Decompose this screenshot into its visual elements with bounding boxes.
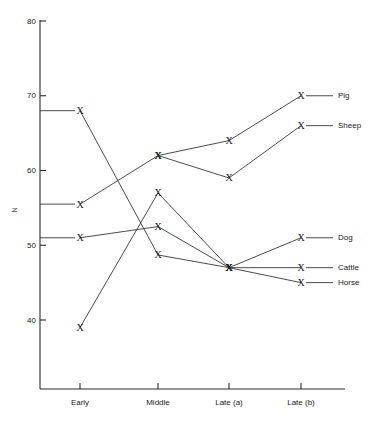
data-point-marker: X — [225, 135, 233, 146]
data-point-marker: X — [76, 322, 84, 333]
axes-layer — [40, 20, 345, 389]
data-point-marker: X — [297, 232, 305, 243]
data-point-marker: X — [297, 277, 305, 288]
x-axis-tick-label: Late (a) — [215, 398, 243, 407]
data-point-marker: X — [76, 232, 84, 243]
y-axis-tick-label: 80 — [27, 17, 36, 26]
series-line-horse — [80, 111, 301, 283]
series-lines-layer — [80, 96, 301, 328]
y-axis-tick-label: 70 — [27, 91, 36, 100]
series-label-horse: Horse — [338, 278, 360, 287]
data-point-marker: X — [76, 199, 84, 210]
y-axis-tick-label: 40 — [27, 316, 36, 325]
data-point-marker: X — [76, 105, 84, 116]
y-axis-tick-label: 50 — [27, 241, 36, 250]
data-point-marker: X — [297, 262, 305, 273]
chart-canvas: XXXXXXXXXXXXXXXXXXX 4050607080EarlyMiddl… — [0, 0, 383, 428]
data-point-marker: X — [297, 120, 305, 131]
line-chart: XXXXXXXXXXXXXXXXXXX 4050607080EarlyMiddl… — [0, 0, 383, 428]
data-point-marker: X — [225, 262, 233, 273]
data-point-marker: X — [297, 90, 305, 101]
x-axis-tick-label: Early — [71, 398, 89, 407]
data-point-marker: X — [225, 172, 233, 183]
y-axis-title: N — [11, 207, 18, 212]
y-axis-tick-label: 60 — [27, 166, 36, 175]
series-line-cattle — [80, 193, 301, 328]
series-line-dog — [80, 227, 301, 268]
series-label-dog: Dog — [338, 233, 353, 242]
label-leader-lines-layer — [40, 96, 333, 283]
data-point-markers-layer: XXXXXXXXXXXXXXXXXXX — [76, 90, 305, 333]
series-label-pig: Pig — [338, 91, 350, 100]
data-point-marker: X — [154, 187, 162, 198]
x-axis-tick-label: Middle — [146, 398, 170, 407]
series-label-cattle: Cattle — [338, 263, 359, 272]
series-label-sheep: Sheep — [338, 121, 362, 130]
data-point-marker: X — [154, 249, 162, 260]
series-line-sheep — [158, 126, 301, 178]
x-axis-tick-label: Late (b) — [287, 398, 315, 407]
data-point-marker: X — [154, 150, 162, 161]
chart-text-layer: 4050607080EarlyMiddleLate (a)Late (b)NPi… — [11, 17, 362, 407]
data-point-marker: X — [154, 221, 162, 232]
